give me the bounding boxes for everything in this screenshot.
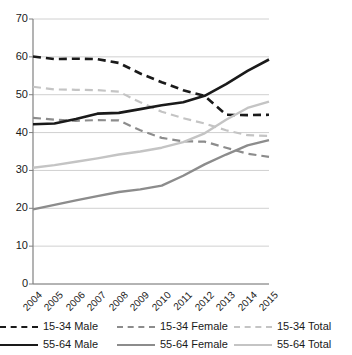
legend-swatch-icon bbox=[117, 340, 155, 350]
legend-item[interactable]: 15-34 Male bbox=[0, 318, 117, 335]
legend-item[interactable]: 55-64 Male bbox=[0, 336, 117, 353]
legend-swatch-icon bbox=[234, 322, 272, 332]
y-tick-label: 40 bbox=[2, 127, 28, 138]
legend-row: 15-34 Male15-34 Female15-34 Total bbox=[0, 318, 352, 335]
legend-row: 55-64 Male55-64 Female55-64 Total bbox=[0, 336, 352, 353]
legend-swatch-icon bbox=[234, 340, 272, 350]
legend-swatch-icon bbox=[117, 322, 155, 332]
y-tick-label: 30 bbox=[2, 164, 28, 175]
legend-swatch-icon bbox=[0, 340, 38, 350]
legend-label: 55-64 Female bbox=[160, 339, 228, 350]
legend-label: 55-64 Male bbox=[43, 339, 98, 350]
line-chart: 706050403020100 200420052006200720082009… bbox=[0, 0, 352, 355]
y-tick-label: 0 bbox=[2, 278, 28, 289]
series-line-15-34-total bbox=[33, 87, 269, 136]
chart-legend: 15-34 Male15-34 Female15-34 Total 55-64 … bbox=[0, 316, 352, 355]
legend-label: 15-34 Total bbox=[277, 321, 331, 332]
legend-item[interactable]: 15-34 Female bbox=[117, 318, 234, 335]
legend-label: 15-34 Female bbox=[160, 321, 228, 332]
plot-area bbox=[0, 0, 352, 300]
legend-swatch-icon bbox=[0, 322, 38, 332]
legend-item[interactable]: 55-64 Female bbox=[117, 336, 234, 353]
legend-label: 55-64 Total bbox=[277, 339, 331, 350]
y-tick-label: 70 bbox=[2, 13, 28, 24]
y-tick-label: 20 bbox=[2, 202, 28, 213]
y-tick-label: 50 bbox=[2, 89, 28, 100]
legend-item[interactable]: 15-34 Total bbox=[234, 318, 351, 335]
legend-label: 15-34 Male bbox=[43, 321, 98, 332]
legend-item[interactable]: 55-64 Total bbox=[234, 336, 351, 353]
y-tick-label: 10 bbox=[2, 240, 28, 251]
plot-svg bbox=[0, 0, 352, 300]
y-tick-label: 60 bbox=[2, 51, 28, 62]
y-axis-labels: 706050403020100 bbox=[0, 0, 28, 300]
